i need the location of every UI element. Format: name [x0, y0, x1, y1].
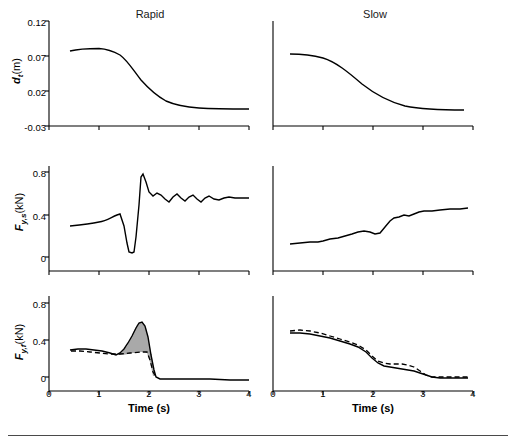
panel-rapid-displacement	[45, 21, 249, 130]
curve-slow-fyf-dashed	[290, 330, 468, 377]
curve-slow-displacement	[290, 54, 464, 110]
panel-slow-fys	[273, 166, 473, 275]
bottom-divider	[8, 435, 508, 436]
curve-rapid-fys	[70, 174, 249, 253]
panel-slow-displacement	[273, 21, 473, 130]
curve-rapid-displacement	[70, 49, 249, 110]
panel-rapid-fyf	[45, 296, 249, 395]
panel-slow-fyf	[273, 296, 473, 395]
panel-rapid-fys	[45, 166, 249, 275]
curve-slow-fyf-solid	[290, 333, 468, 378]
curve-slow-fys	[290, 208, 468, 244]
plot-svg	[0, 0, 516, 441]
curve-rapid-fyf-solid	[70, 322, 249, 380]
figure-container: Rapid Slow dt(m) 0.12 0.07 0.02 -0.03 Fy…	[0, 0, 516, 441]
